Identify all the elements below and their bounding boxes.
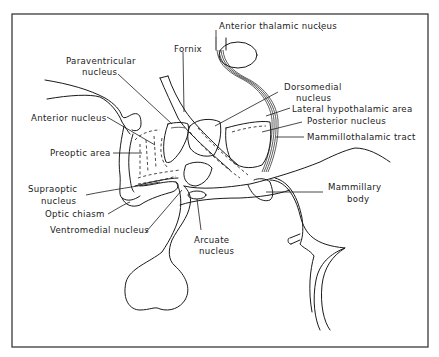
pituitary <box>125 182 191 310</box>
label-dorsomedial-1: Dorsomedial <box>284 82 342 92</box>
label-arcuate-1: Arcuate <box>194 235 229 245</box>
dorsomedial-nucleus-shape <box>188 119 221 156</box>
label-paraventricular-2: nucleus <box>82 67 118 77</box>
label-fornix: Fornix <box>174 44 202 54</box>
paraventricular-nucleus-shape <box>164 123 189 163</box>
mammillothalamic-tract <box>216 38 278 172</box>
arcuate-nucleus-shape <box>188 191 206 199</box>
brainstem-rear <box>321 248 345 330</box>
lateral-hypothalamic-border <box>232 126 266 132</box>
label-mammillothalamic: Mammillothalamic tract <box>307 132 416 142</box>
label-supraoptic-2: nucleus <box>41 196 77 206</box>
septum-contour <box>45 80 141 131</box>
brainstem-inner <box>275 178 314 312</box>
label-anterior-thalamic: Anterior thalamic nucleus <box>219 21 337 31</box>
label-supraoptic-1: Supraoptic <box>28 184 77 194</box>
preoptic-dashed-region <box>135 130 180 184</box>
label-optic-chiasm: Optic chiasm <box>45 209 105 219</box>
label-preoptic: Preoptic area <box>50 148 111 158</box>
label-anterior: Anterior nucleus <box>31 113 107 123</box>
label-mammillary-1: Mammillary <box>328 182 381 192</box>
anterior-thalamic-oval <box>219 42 257 68</box>
posterior-nucleus-shape <box>226 121 271 167</box>
ventromedial-nucleus-shape <box>184 162 212 186</box>
lamina-inner <box>129 134 134 192</box>
label-arcuate-2: nucleus <box>199 246 235 256</box>
paraventricular-inner <box>171 127 185 128</box>
oculomotor-stub <box>288 234 300 244</box>
label-lateral-hypothalamic: Lateral hypothalamic area <box>292 104 413 114</box>
label-mammillary-2: body <box>347 194 369 204</box>
label-dorsomedial-2: nucleus <box>296 93 332 103</box>
brainstem-front <box>270 180 345 330</box>
optic-chiasm-shape <box>122 182 178 207</box>
fornix-cap <box>160 76 168 78</box>
label-ventromedial: Ventromedial nucleus <box>50 225 149 235</box>
label-paraventricular-1: Paraventricular <box>66 56 136 66</box>
label-posterior: Posterior nucleus <box>307 116 386 126</box>
hypothalamus-diagram: Paraventricular nucleus Fornix Anterior … <box>0 0 439 357</box>
lamina-terminalis <box>119 126 140 200</box>
fornix-dashed <box>190 132 240 178</box>
